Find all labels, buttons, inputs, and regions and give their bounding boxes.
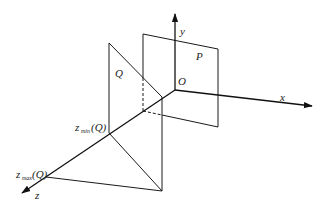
- svg-text:(Q): (Q): [32, 168, 48, 181]
- svg-text:min: min: [81, 128, 90, 134]
- plane-q-label: Q: [115, 67, 123, 79]
- svg-text:z: z: [15, 168, 21, 180]
- x-axis: [175, 90, 312, 106]
- plane-p-label: P: [195, 50, 203, 62]
- y-axis-label: y: [179, 25, 185, 37]
- svg-text:max: max: [22, 175, 32, 181]
- z-min-label: z min (Q): [74, 121, 107, 134]
- z-axis-label: z: [34, 189, 40, 201]
- svg-text:z: z: [74, 121, 80, 133]
- svg-text:(Q): (Q): [91, 121, 107, 134]
- plane-q: [46, 43, 162, 191]
- projection-diagram: y x z O P Q z min (Q) z max (Q): [0, 0, 322, 208]
- z-max-label: z max (Q): [15, 168, 48, 181]
- origin-label: O: [178, 75, 186, 87]
- x-axis-label: x: [279, 91, 285, 103]
